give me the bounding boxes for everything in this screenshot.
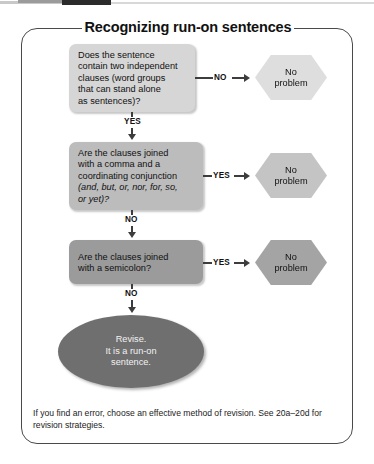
out1-text: No problem	[274, 67, 307, 89]
decision-box-semicolon: Are the clauses joined with a semicolon?	[69, 240, 203, 284]
edge-label-q2-yes: YES	[212, 171, 231, 180]
edge-label-q2-no: NO	[124, 215, 139, 224]
edge-label-q1-yes: YES	[123, 117, 142, 126]
out2-text: No problem	[274, 165, 307, 187]
q1-line-2: contain two independent	[78, 61, 187, 72]
q2-line-1: Are the clauses joined	[78, 148, 195, 159]
result-text: Revise. It is a run-on sentence.	[105, 334, 156, 369]
out2-line-1: No	[285, 165, 297, 175]
artifact-segment-mid	[18, 0, 62, 3]
edge-label-q3-no: NO	[124, 289, 139, 298]
edge-q1-no-arrow	[244, 74, 250, 82]
decision-box-comma-conjunction: Are the clauses joined with a comma and …	[69, 142, 203, 210]
edge-label-q1-no: NO	[213, 73, 228, 82]
edge-q1-yes-arrow	[128, 134, 136, 140]
decision-box-independent-clauses: Does the sentence contain two independen…	[69, 44, 195, 112]
q1-line-1: Does the sentence	[78, 50, 187, 61]
out2-line-2: problem	[274, 176, 307, 186]
edge-q2-yes-arrow	[244, 172, 250, 180]
q2-italic-line-1: (and, but, or, nor, for, so,	[78, 182, 195, 193]
q2-line-3: coordinating conjunction	[78, 171, 195, 182]
edge-q1-no-line-a	[195, 77, 213, 79]
page-edge-artifact	[0, 0, 374, 7]
out3-line-1: No	[285, 252, 297, 262]
out3-line-2: problem	[274, 263, 307, 273]
artifact-segment-dark	[62, 0, 111, 5]
result-line-3: sentence.	[111, 357, 151, 367]
out3-text: No problem	[274, 252, 307, 274]
result-line-2: It is a run-on	[105, 346, 156, 356]
page-title: Recognizing run-on sentences	[84, 19, 292, 35]
edge-q3-no-arrow	[128, 307, 136, 313]
footer-note: If you find an error, choose an effectiv…	[33, 408, 343, 431]
edge-q2-no-arrow	[128, 232, 136, 238]
footer-line-1: If you find an error, choose an effectiv…	[33, 408, 322, 418]
result-revise-run-on: Revise. It is a run-on sentence.	[58, 315, 204, 388]
edge-label-q3-yes: YES	[212, 258, 231, 267]
q1-line-4: that can stand alone	[78, 84, 187, 95]
q3-line-1: Are the clauses joined	[78, 252, 195, 263]
out1-line-2: problem	[274, 78, 307, 88]
result-line-1: Revise.	[116, 334, 147, 344]
q1-line-5: as sentences)?	[78, 96, 187, 107]
q1-line-3: clauses (word groups	[78, 73, 187, 84]
edge-q3-yes-arrow	[244, 259, 250, 267]
q3-line-2: with a semicolon?	[78, 263, 195, 274]
out1-line-1: No	[285, 67, 297, 77]
q2-line-2: with a comma and a	[78, 159, 195, 170]
footer-line-2: revision strategies.	[33, 420, 105, 430]
q2-italic-line-2: or yet)?	[78, 194, 195, 205]
artifact-segment-tail	[111, 2, 374, 4]
